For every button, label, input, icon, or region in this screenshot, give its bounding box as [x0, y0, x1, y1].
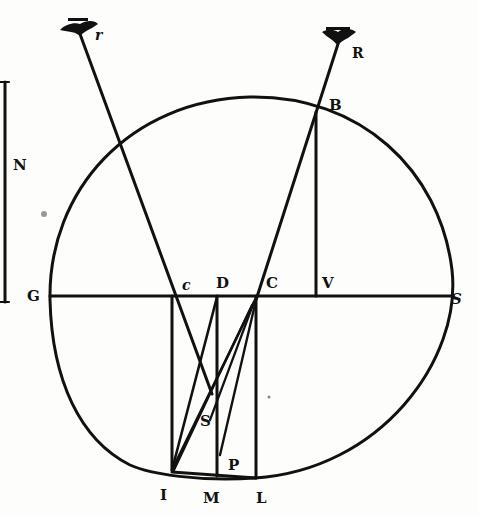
label-R: R	[352, 45, 364, 61]
drop-circle	[50, 97, 453, 479]
line-ID	[172, 297, 217, 470]
ray-r	[80, 34, 212, 394]
label-V: V	[321, 274, 334, 292]
line-IC-2	[174, 305, 252, 470]
label-G: G	[27, 287, 40, 305]
ink-dot	[268, 396, 271, 399]
star-r-icon	[60, 18, 98, 36]
ink-dot	[41, 211, 47, 217]
label-M: M	[203, 489, 220, 507]
label-r: r	[95, 27, 104, 43]
label-C: C	[266, 274, 278, 292]
label-I: I	[160, 486, 167, 504]
label-P: P	[228, 456, 239, 474]
label-N: N	[13, 156, 27, 174]
star-R-icon	[322, 27, 356, 46]
label-c: c	[182, 277, 191, 293]
label-S-right: S	[451, 290, 462, 308]
label-S: S	[200, 412, 211, 430]
label-D: D	[216, 274, 229, 292]
ray-R	[256, 44, 338, 300]
label-B: B	[329, 96, 342, 114]
refraction-diagram: r R B N G c D C V S S P I M L	[0, 0, 478, 516]
label-L: L	[256, 489, 267, 507]
